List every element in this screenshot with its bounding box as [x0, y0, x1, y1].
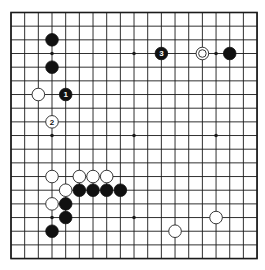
white-stone — [100, 170, 113, 183]
black-stone-disc — [46, 34, 59, 47]
go-board: 123 — [0, 0, 265, 270]
black-stone — [46, 225, 59, 238]
star-point — [132, 52, 136, 56]
star-point — [50, 216, 54, 220]
white-stone — [87, 170, 100, 183]
white-stone — [46, 170, 59, 183]
white-stone — [169, 225, 182, 238]
black-stone-disc — [114, 184, 127, 197]
white-stone-disc — [169, 225, 182, 238]
black-stone-disc — [59, 198, 72, 211]
star-point — [50, 134, 54, 138]
black-stone — [114, 184, 127, 197]
white-stone — [73, 170, 86, 183]
black-stone-disc — [46, 61, 59, 74]
star-point — [132, 134, 136, 138]
black-stone-disc — [87, 184, 100, 197]
star-point — [214, 134, 218, 138]
white-stone-disc — [46, 170, 59, 183]
star-point — [214, 52, 218, 56]
move-number: 2 — [50, 118, 55, 127]
move-number: 1 — [63, 90, 68, 99]
black-stone-disc — [223, 47, 236, 60]
black-stone-disc — [46, 225, 59, 238]
black-stone — [59, 198, 72, 211]
black-stone — [46, 61, 59, 74]
white-stone: 2 — [46, 116, 59, 129]
white-stone-disc — [87, 170, 100, 183]
white-stone-disc — [73, 170, 86, 183]
black-stone: 3 — [155, 47, 168, 60]
black-stone-disc — [73, 184, 86, 197]
white-stone — [196, 47, 209, 60]
white-stone — [210, 211, 223, 224]
black-stone — [46, 34, 59, 47]
white-stone-disc — [196, 47, 209, 60]
white-stone-disc — [210, 211, 223, 224]
white-stone-disc — [32, 88, 45, 101]
white-stone — [59, 184, 72, 197]
white-stone-disc — [100, 170, 113, 183]
black-stone — [223, 47, 236, 60]
white-stone — [46, 198, 59, 211]
move-number: 3 — [159, 49, 164, 58]
black-stone — [87, 184, 100, 197]
black-stone — [73, 184, 86, 197]
black-stone-disc — [100, 184, 113, 197]
white-stone — [32, 88, 45, 101]
black-stone — [100, 184, 113, 197]
black-stone: 1 — [59, 88, 72, 101]
star-point — [132, 216, 136, 220]
star-point — [50, 52, 54, 56]
white-stone-disc — [46, 198, 59, 211]
black-stone — [59, 211, 72, 224]
white-stone-disc — [59, 184, 72, 197]
black-stone-disc — [59, 211, 72, 224]
